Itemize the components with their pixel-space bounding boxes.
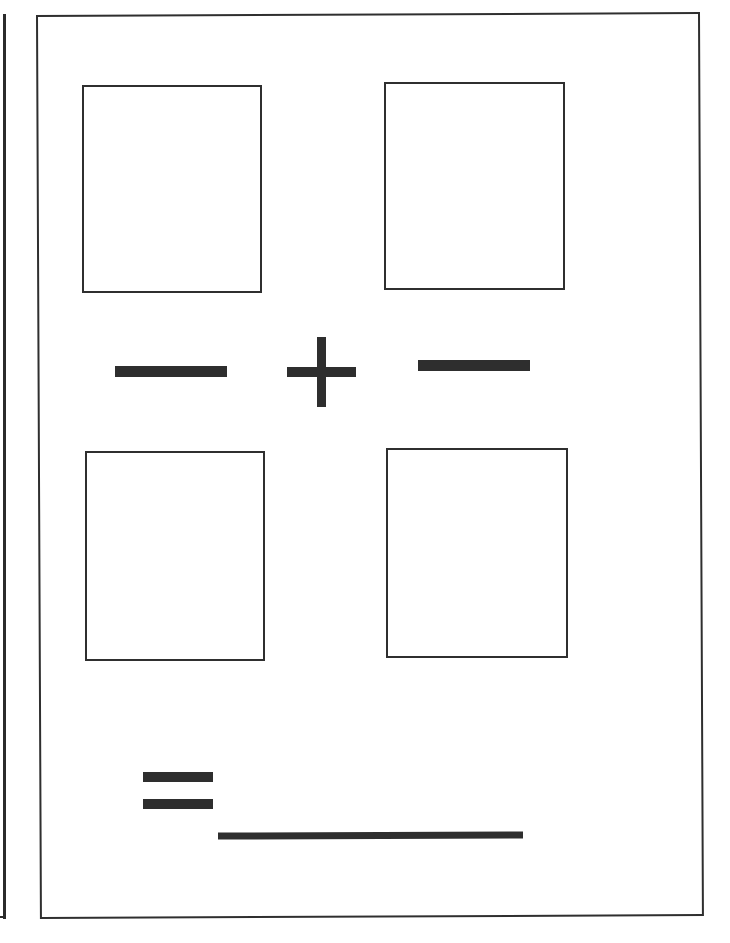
answer-box-top-right[interactable]	[384, 82, 565, 290]
adjacent-page-edge	[3, 14, 6, 919]
answer-box-bottom-right[interactable]	[386, 448, 568, 658]
minus-icon	[115, 366, 227, 377]
minus-icon	[418, 360, 530, 371]
answer-line[interactable]	[218, 831, 523, 839]
answer-box-bottom-left[interactable]	[85, 451, 265, 661]
answer-box-top-left[interactable]	[82, 85, 262, 293]
plus-icon-vertical	[317, 337, 326, 407]
equals-icon-top	[143, 772, 213, 782]
adjacent-page-bottom-edge	[0, 916, 6, 918]
equals-icon-bottom	[143, 799, 213, 809]
